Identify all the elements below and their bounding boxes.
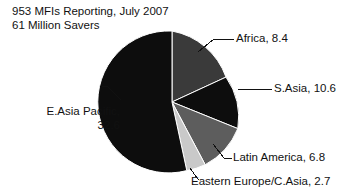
pie-label-eastern-europe: Eastern Europe/C.Asia, 2.7 xyxy=(191,175,330,189)
pie-label-e-asia-pacific-line-1: E.Asia Pacific, xyxy=(47,105,121,117)
pie-label-latin-america: Latin America, 6.8 xyxy=(233,151,325,165)
pie-label-africa: Africa, 8.4 xyxy=(236,32,288,46)
pie-slices xyxy=(98,31,239,173)
pie-label-e-asia-pacific-line-2: 32.6 xyxy=(18,119,120,133)
pie-chart-figure: 953 MFIs Reporting, July 2007 61 Million… xyxy=(0,0,345,194)
pie-label-e-asia-pacific: E.Asia Pacific, 32.6 xyxy=(18,105,120,132)
pie-graphic xyxy=(0,0,345,194)
pie-label-s-asia: S.Asia, 10.6 xyxy=(274,82,336,96)
